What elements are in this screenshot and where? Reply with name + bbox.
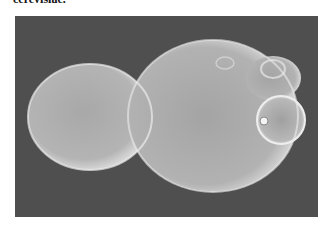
scar-pore [260,117,268,125]
figure-caption-fragment: cerevisiae. [13,0,66,7]
sem-micrograph-yeast [15,16,318,217]
